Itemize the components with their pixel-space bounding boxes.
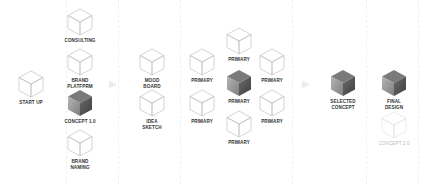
cube-outline-icon (372, 111, 416, 139)
node-label: SELECTED CONCEPT (321, 99, 365, 112)
node-label: IDEA SKETCH (130, 119, 174, 132)
cube-outline-icon (130, 48, 174, 76)
node-label: CONCEPT 1.0 (58, 119, 102, 125)
cube-outline-icon (58, 8, 102, 36)
node-primary: PRIMARY (250, 48, 294, 84)
cube-outline-icon (58, 129, 102, 157)
node-label: FINAL DESIGN (372, 99, 416, 112)
cube-outline-icon (250, 89, 294, 117)
stage-separator (118, 0, 119, 184)
stage-separator (366, 0, 367, 184)
arrow-right-icon: ▶ (108, 79, 118, 89)
cube-outline-icon (250, 48, 294, 76)
node-start-up: START UP (9, 70, 53, 106)
cube-solid-icon (321, 69, 365, 97)
cube-outline-icon (9, 70, 53, 98)
cube-solid-icon (58, 89, 102, 117)
node-label: CONSULTING (58, 38, 102, 44)
cube-solid-icon (372, 69, 416, 97)
arrow-right-icon: ▶ (301, 79, 311, 89)
node-mood-board: MOOD BOARD (130, 48, 174, 90)
node-label: PRIMARY (217, 140, 261, 146)
node-label: PRIMARY (250, 78, 294, 84)
cube-outline-icon (58, 48, 102, 76)
node-label: BRAND NAMING (58, 159, 102, 172)
node-concept-2-0: CONCEPT 2.0 (372, 111, 416, 147)
stage-separator (418, 0, 419, 184)
node-consulting: CONSULTING (58, 8, 102, 44)
node-concept-1-0: CONCEPT 1.0 (58, 89, 102, 125)
node-idea-sketch: IDEA SKETCH (130, 89, 174, 131)
node-brand-platfprm: BRAND PLATFPRM (58, 48, 102, 90)
node-label: CONCEPT 2.0 (372, 141, 416, 147)
node-selected-concept: SELECTED CONCEPT (321, 69, 365, 111)
node-brand-naming: BRAND NAMING (58, 129, 102, 171)
node-final-design: FINAL DESIGN (372, 69, 416, 111)
node-primary: PRIMARY (250, 89, 294, 125)
node-label: PRIMARY (250, 119, 294, 125)
cube-outline-icon (130, 89, 174, 117)
node-label: START UP (9, 100, 53, 106)
